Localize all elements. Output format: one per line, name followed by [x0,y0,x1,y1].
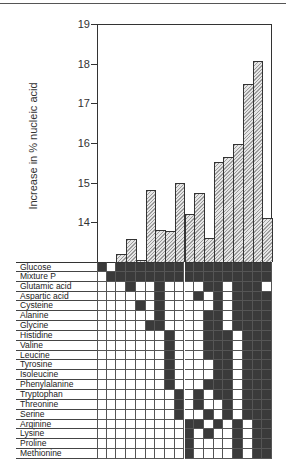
matrix-cell-filled [185,420,195,430]
matrix-row-label: Threonine [16,400,97,410]
matrix-cell-empty [146,390,156,400]
matrix-cell-empty [126,410,136,420]
matrix-cell-empty [185,341,195,351]
matrix-cell-empty [97,282,107,292]
matrix-cell-empty [126,380,136,390]
matrix-cell-empty [233,351,243,361]
matrix-cell-filled [214,311,224,321]
matrix-cell-filled [185,272,195,282]
matrix-cell-filled [233,449,243,459]
matrix-cell-filled [253,331,263,341]
matrix-cell-empty [204,400,214,410]
matrix-cell-filled [233,439,243,449]
matrix-cell-empty [126,360,136,370]
matrix-cell-empty [204,370,214,380]
matrix-cell-empty [116,341,126,351]
matrix-cell-filled [262,321,272,331]
matrix-cell-filled [262,380,272,390]
matrix-cell-empty [155,400,165,410]
matrix-cell-filled [243,380,253,390]
matrix-row: Arginine [16,420,272,430]
matrix-cell-empty [136,321,146,331]
matrix-cell-filled [253,321,263,331]
matrix-cell-filled [194,400,204,410]
matrix-cell-empty [146,380,156,390]
matrix-cell-empty [155,410,165,420]
matrix-cell-empty [136,410,146,420]
matrix-cell-empty [155,439,165,449]
matrix-cell-empty [233,370,243,380]
matrix-cell-filled [126,282,136,292]
matrix-cell-empty [175,341,185,351]
matrix-cell-empty [97,341,107,351]
matrix-cell-empty [175,321,185,331]
matrix-cell-filled [146,321,156,331]
matrix-cell-empty [116,292,126,302]
matrix-cell-filled [155,321,165,331]
matrix-cell-filled [253,400,263,410]
matrix-row-label: Alanine [16,311,97,321]
matrix-cell-empty [185,292,195,302]
matrix-cell-filled [204,262,214,272]
matrix-cell-empty [136,420,146,430]
plot-area [97,24,272,262]
matrix-cell-empty [116,390,126,400]
matrix-cell-filled [175,400,185,410]
matrix-cell-empty [175,370,185,380]
matrix-cell-filled [253,311,263,321]
matrix-cell-empty [214,429,224,439]
matrix-cell-empty [175,439,185,449]
matrix-cell-empty [107,292,117,302]
matrix-cell-empty [97,390,107,400]
matrix-cell-empty [146,331,156,341]
matrix-cell-filled [107,272,117,282]
matrix-cell-filled [214,390,224,400]
matrix-cell-filled [233,272,243,282]
matrix-cell-filled [233,282,243,292]
matrix-cell-empty [146,311,156,321]
matrix-cell-filled [223,272,233,282]
matrix-row: Proline [16,439,272,449]
matrix-cell-filled [146,272,156,282]
matrix-cell-empty [116,311,126,321]
matrix-cell-filled [165,272,175,282]
matrix-cell-filled [214,321,224,331]
matrix-cell-filled [253,360,263,370]
matrix-cell-filled [204,351,214,361]
matrix-row-label: Phenylalanine [16,380,97,390]
top-rule [0,3,286,4]
matrix-cell-empty [116,400,126,410]
matrix-cell-filled [262,370,272,380]
matrix-cell-empty [194,380,204,390]
matrix-cell-empty [107,400,117,410]
y-tick-label: 14 [72,217,90,228]
matrix-cell-empty [155,380,165,390]
matrix-cell-empty [204,301,214,311]
matrix-cell-empty [233,390,243,400]
matrix-cell-filled [204,282,214,292]
matrix-cell-filled [262,311,272,321]
matrix-cell-empty [223,321,233,331]
matrix-cell-empty [233,360,243,370]
matrix-cell-filled [223,341,233,351]
matrix-cell-filled [185,429,195,439]
matrix-cell-empty [165,292,175,302]
matrix-cell-empty [233,380,243,390]
matrix-cell-empty [194,341,204,351]
matrix-cell-filled [136,272,146,282]
matrix-cell-empty [97,321,107,331]
matrix-cell-filled [194,292,204,302]
matrix-cell-empty [146,301,156,311]
matrix-cell-empty [243,420,253,430]
matrix-cell-empty [146,429,156,439]
matrix-cell-filled [165,351,175,361]
matrix-row-label: Tyrosine [16,360,97,370]
matrix-row: Leucine [16,351,272,361]
matrix-cell-empty [126,301,136,311]
matrix-cell-empty [185,380,195,390]
matrix-cell-empty [136,400,146,410]
matrix-cell-empty [136,331,146,341]
matrix-row-label: Isoleucine [16,370,97,380]
matrix-cell-empty [165,301,175,311]
matrix-cell-empty [194,429,204,439]
